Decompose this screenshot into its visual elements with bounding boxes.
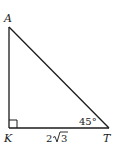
vertex-label-K: K (3, 132, 13, 145)
triangle-diagram: A K T 45° 2 3 (0, 0, 118, 150)
vertex-label-T: T (103, 132, 112, 145)
angle-label-T: 45° (79, 116, 97, 127)
right-angle-marker (9, 120, 17, 128)
side-label-KT-coefficient: 2 (46, 133, 52, 144)
side-AT (9, 27, 109, 128)
vertex-label-A: A (3, 12, 12, 25)
side-label-KT-radicand: 3 (61, 133, 67, 144)
